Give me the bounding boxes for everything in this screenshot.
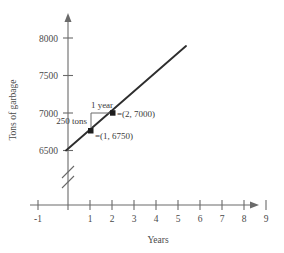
slope-triangle: 1 year 250 tons [56, 100, 113, 131]
x-tick-label-4: 4 [154, 214, 159, 224]
x-tick-label-3: 3 [132, 214, 137, 224]
data-point-1-label: =(1, 6750) [95, 131, 133, 141]
run-label: 1 year [91, 100, 113, 110]
data-point-1 [88, 128, 94, 134]
y-axis-title: Tons of garbage [8, 79, 18, 140]
x-tick-label-1: 1 [88, 214, 93, 224]
x-tick-label-neg1: -1 [34, 214, 42, 224]
rise-label: 250 tons [56, 116, 87, 126]
garbage-line-chart: 8000 7500 7000 6500 Tons of garbage -1 1… [0, 0, 284, 253]
y-tick-label-8000: 8000 [39, 34, 58, 44]
y-axis-group: 8000 7500 7000 6500 Tons of garbage [8, 13, 74, 210]
x-axis-arrow-icon [250, 202, 259, 209]
data-point-2 [110, 110, 116, 116]
y-tick-label-7500: 7500 [39, 71, 58, 81]
data-point-2-label: =(2, 7000) [117, 109, 155, 119]
x-tick-label-6: 6 [198, 214, 203, 224]
x-tick-label-7: 7 [220, 214, 225, 224]
x-tick-label-2: 2 [110, 214, 115, 224]
x-tick-label-8: 8 [242, 214, 247, 224]
x-axis-group: -1 1 2 3 4 5 6 7 8 9 Years [30, 200, 269, 245]
x-axis-title: Years [147, 235, 169, 245]
y-tick-label-6500: 6500 [39, 146, 58, 156]
x-tick-label-5: 5 [176, 214, 181, 224]
y-axis-arrow-icon [65, 13, 72, 22]
x-tick-label-9: 9 [264, 214, 269, 224]
